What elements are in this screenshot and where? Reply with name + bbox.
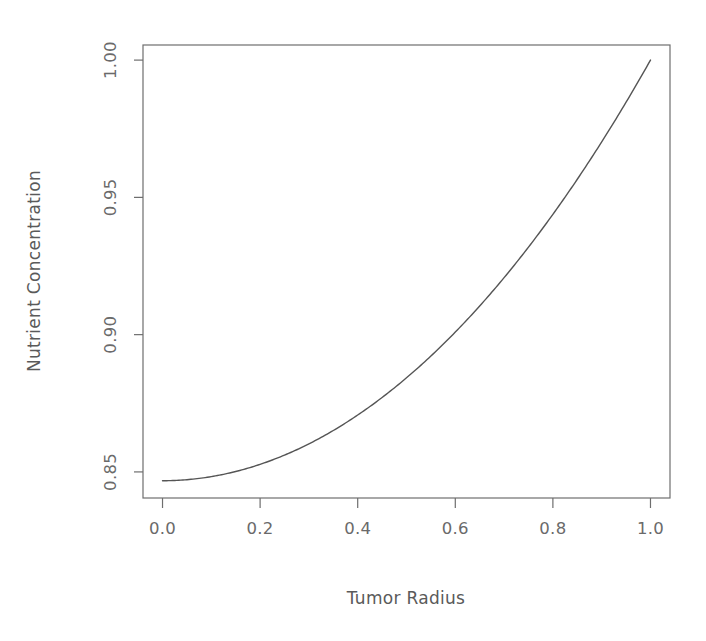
y-axis-title: Nutrient Concentration [24, 170, 44, 372]
x-tick-label: 0.6 [442, 519, 469, 538]
x-tick-label: 0.0 [149, 519, 176, 538]
x-tick-label: 0.4 [344, 519, 371, 538]
x-tick-label: 0.8 [539, 519, 566, 538]
x-axis-title: Tumor Radius [346, 588, 466, 608]
y-tick-label: 0.90 [102, 316, 121, 354]
nutrient-concentration-chart: 0.850.900.951.00 0.00.20.40.60.81.0 Tumo… [0, 0, 706, 641]
x-tick-label: 1.0 [637, 519, 664, 538]
x-tick-label: 0.2 [247, 519, 274, 538]
y-tick-label: 0.95 [102, 178, 121, 216]
y-tick-label: 0.85 [102, 453, 121, 491]
y-tick-label: 1.00 [102, 41, 121, 79]
